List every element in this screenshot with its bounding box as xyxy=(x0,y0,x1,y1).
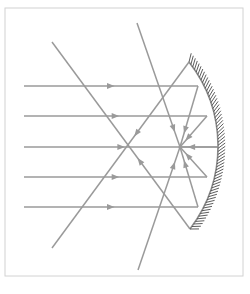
focal-point-marker xyxy=(178,145,181,148)
focal-point-dot xyxy=(178,145,181,148)
figure-root xyxy=(0,0,250,294)
ray-diagram-canvas xyxy=(0,0,250,294)
